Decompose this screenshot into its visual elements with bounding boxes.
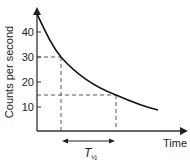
chart-svg: 40 30 20 10 Counts per second T½ Time xyxy=(0,0,190,163)
arrow-right-icon xyxy=(109,139,115,144)
dashed-guides xyxy=(37,57,116,131)
y-axis-label: Counts per second xyxy=(3,26,15,118)
x-axis-label: Time xyxy=(163,137,187,149)
y-tick-20: 20 xyxy=(22,76,34,88)
decay-curve xyxy=(37,14,158,110)
half-life-arrow xyxy=(62,139,115,144)
y-tick-40: 40 xyxy=(22,26,34,38)
x-axis-arrow-icon xyxy=(180,127,188,135)
decay-chart: 40 30 20 10 Counts per second T½ Time xyxy=(0,0,190,163)
y-axis-arrow-icon xyxy=(33,7,41,15)
half-life-label: T½ xyxy=(84,146,97,161)
y-tick-30: 30 xyxy=(22,51,34,63)
y-tick-10: 10 xyxy=(22,101,34,113)
arrow-left-icon xyxy=(62,139,68,144)
half-life-label-sub: ½ xyxy=(91,154,97,161)
